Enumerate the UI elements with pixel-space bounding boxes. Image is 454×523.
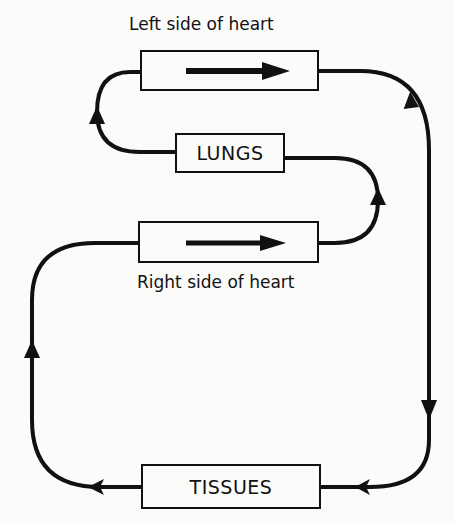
left-heart-box xyxy=(140,50,319,91)
arrowhead-up-left-inner xyxy=(89,106,105,124)
tissues-box: TISSUES xyxy=(141,464,321,509)
arrowhead-up-left-vertical xyxy=(24,340,40,358)
tissues-label: TISSUES xyxy=(190,476,273,498)
right-heart-box xyxy=(138,221,319,263)
edge-tissues-to-right-heart xyxy=(32,243,141,487)
right-heart-caption: Right side of heart xyxy=(137,272,295,292)
lungs-box: LUNGS xyxy=(175,133,285,173)
arrowhead-down-right-vertical xyxy=(421,400,437,420)
left-heart-caption: Left side of heart xyxy=(129,14,274,34)
arrowhead-up-right-inner xyxy=(370,188,386,205)
lungs-label: LUNGS xyxy=(196,142,263,164)
flow-direction-arrow-icon xyxy=(184,233,294,253)
edge-left-heart-to-tissues xyxy=(318,71,429,487)
flow-direction-arrow-icon xyxy=(184,61,294,81)
